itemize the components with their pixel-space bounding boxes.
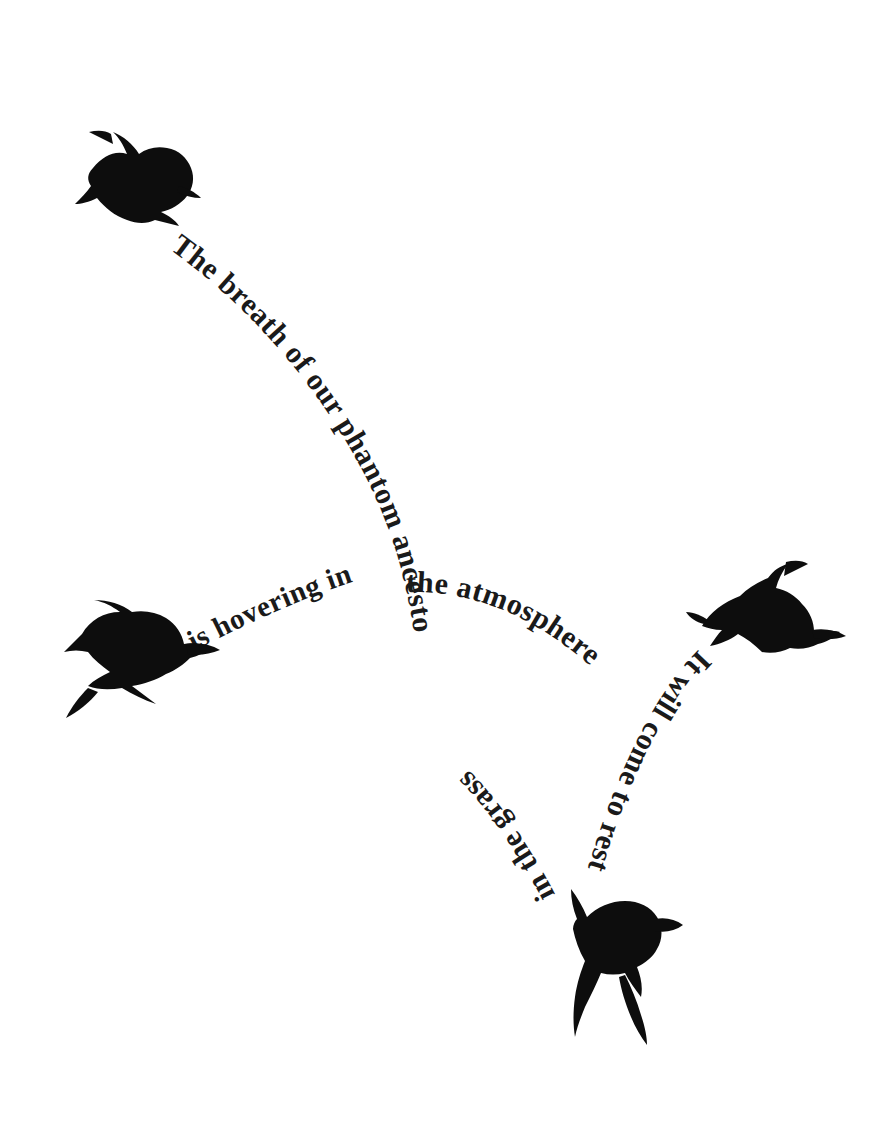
artwork-canvas: The breath of our phantom ancestors is h… xyxy=(0,0,873,1136)
artwork-page: The breath of our phantom ancestors The … xyxy=(0,0,873,1136)
